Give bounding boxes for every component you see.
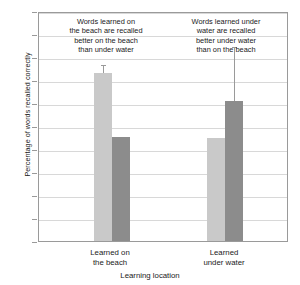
gridline <box>39 13 287 14</box>
annotation-line: better under water <box>167 36 285 45</box>
annotation-line: Words learned under <box>167 17 285 26</box>
bar-0-0 <box>94 73 112 241</box>
error-bar-cap-0-0 <box>101 65 106 66</box>
bar-0-1 <box>112 137 130 241</box>
annotation-line: the beach are recalled <box>47 26 165 35</box>
annotation-group-1: Words learned under water are recalled b… <box>167 17 285 54</box>
gridline <box>39 151 287 152</box>
x-axis-group-label-0: Learned on the beach <box>60 248 160 268</box>
y-tick-mark <box>32 81 37 82</box>
gridline <box>39 197 287 198</box>
y-tick-mark <box>32 35 37 36</box>
y-tick-mark <box>32 173 37 174</box>
y-tick-mark <box>32 104 37 105</box>
x-axis-group-label-1: Learned under water <box>174 248 274 268</box>
x-group-line: under water <box>174 258 274 268</box>
gridline <box>39 59 287 60</box>
y-tick-mark <box>32 242 37 243</box>
annotation-group-0: Words learned on the beach are recalled … <box>47 17 165 54</box>
annotation-line: Words learned on <box>47 17 165 26</box>
plot-area: Words learned on the beach are recalled … <box>38 12 288 242</box>
gridline <box>39 105 287 106</box>
error-bar-1-1 <box>234 48 235 101</box>
y-tick-mark <box>32 150 37 151</box>
annotation-line: than under water <box>47 45 165 54</box>
x-group-line: Learned <box>174 248 274 258</box>
y-tick-mark <box>32 58 37 59</box>
bar-1-0 <box>207 138 225 241</box>
y-tick-mark <box>32 196 37 197</box>
bar-1-1 <box>225 101 243 241</box>
annotation-line: better on the beach <box>47 36 165 45</box>
x-group-line: Learned on <box>60 248 160 258</box>
gridline <box>39 174 287 175</box>
y-tick-mark <box>32 12 37 13</box>
y-tick-mark <box>32 127 37 128</box>
x-group-line: the beach <box>60 258 160 268</box>
x-axis-title: Learning location <box>0 271 300 280</box>
y-tick-mark <box>32 219 37 220</box>
gridline <box>39 82 287 83</box>
gridline <box>39 128 287 129</box>
error-bar-0-0 <box>103 66 104 73</box>
annotation-line: than on the beach <box>167 45 285 54</box>
annotation-line: water are recalled <box>167 26 285 35</box>
bar-chart-figure: Percentage of words recalled correctly 0… <box>0 0 300 285</box>
gridline <box>39 220 287 221</box>
y-axis-title: Percentage of words recalled correctly <box>23 25 32 205</box>
